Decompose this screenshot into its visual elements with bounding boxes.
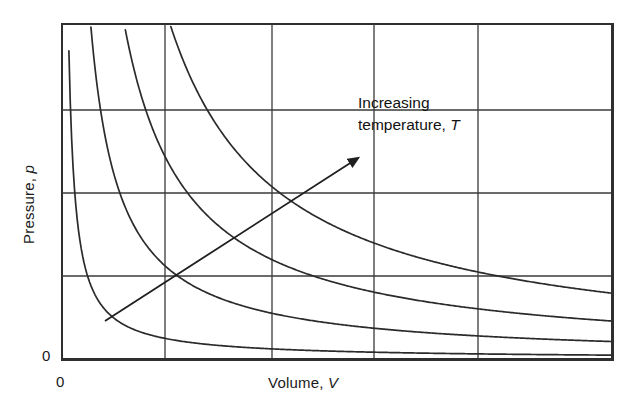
- x-axis-label-text: Volume,: [268, 374, 328, 391]
- plot-canvas: [0, 0, 642, 412]
- y-axis-label-symbol: p: [20, 165, 37, 174]
- y-axis-origin-tick: 0: [42, 347, 51, 364]
- annotation-line-1: Increasing: [358, 94, 430, 111]
- annotation-line-2: temperature, T: [358, 114, 460, 136]
- x-axis-label-symbol: V: [328, 374, 338, 391]
- x-axis-origin-tick: 0: [56, 373, 65, 390]
- y-axis-label: Pressure, p: [20, 145, 37, 265]
- increasing-temperature-annotation: Increasing temperature, T: [358, 92, 460, 137]
- pv-isotherm-figure: Pressure, p Volume, V 0 0 Increasing tem…: [0, 0, 642, 412]
- annotation-line-2-symbol: T: [450, 116, 459, 133]
- plot-frame: [62, 24, 613, 360]
- annotation-line-2-text: temperature,: [358, 116, 450, 133]
- y-axis-label-text: Pressure,: [20, 174, 37, 244]
- x-axis-label: Volume, V: [268, 374, 338, 391]
